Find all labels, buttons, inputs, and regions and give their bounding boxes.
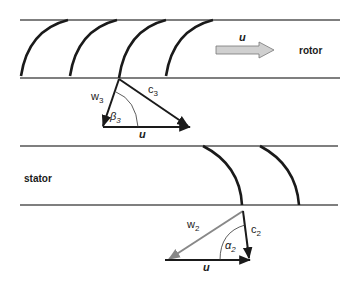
rotor-blade bbox=[21, 20, 68, 76]
beta3-label: β3 bbox=[109, 110, 121, 125]
w2-label: w2 bbox=[186, 218, 200, 233]
stator-velocity-triangle: w2 c2 α2 u bbox=[165, 211, 262, 273]
c2-label: c2 bbox=[251, 223, 262, 238]
u3-label: u bbox=[139, 128, 146, 140]
alpha2-label: α2 bbox=[225, 239, 236, 254]
stator-channel bbox=[20, 146, 338, 205]
alpha2-angle-arc bbox=[220, 225, 245, 260]
c2-vector bbox=[243, 211, 249, 258]
stator-blade bbox=[203, 146, 242, 205]
rotor-label: rotor bbox=[299, 45, 322, 56]
c3-label: c3 bbox=[148, 83, 159, 98]
w3-label: w3 bbox=[90, 90, 104, 105]
rotor-blade bbox=[70, 20, 117, 76]
stator-blade bbox=[260, 146, 299, 205]
c3-vector bbox=[119, 79, 188, 126]
u2-label: u bbox=[203, 261, 210, 273]
u-motion-arrow-icon bbox=[216, 42, 274, 58]
rotor-velocity-triangle: w3 c3 β3 u bbox=[90, 79, 190, 140]
velocity-triangle-diagram: u rotor w3 c3 β3 u stator w2 bbox=[0, 0, 357, 286]
stator-label: stator bbox=[24, 173, 52, 184]
u-motion-label: u bbox=[239, 31, 246, 43]
rotor-blade bbox=[166, 20, 213, 76]
rotor-blade bbox=[119, 20, 166, 78]
rotor-channel: u rotor bbox=[20, 20, 340, 78]
